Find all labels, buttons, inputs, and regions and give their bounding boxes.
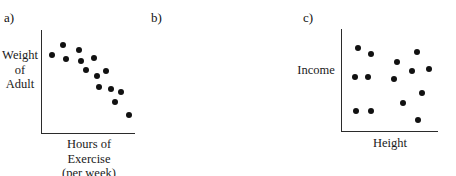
data-point [49, 52, 55, 58]
panel-letter-b: b) [151, 11, 162, 24]
data-point [126, 112, 132, 118]
data-point [78, 58, 84, 64]
data-point [63, 56, 69, 62]
x-axis-label-a: Hours of Exercise (per week) [42, 137, 136, 176]
data-point [103, 68, 109, 74]
scatter-panel-a: a) Weight of Adult Hours of Exercise (pe… [0, 0, 150, 176]
data-point [96, 84, 102, 90]
scatter-panel-c: c) Height of Corn Plant (cm) Age of Corn… [295, 0, 456, 176]
data-point [83, 67, 89, 73]
data-point [60, 42, 66, 48]
data-point [76, 47, 82, 53]
panel-letter-c: c) [303, 11, 313, 24]
plot-area-a [41, 30, 135, 134]
data-point [108, 86, 114, 92]
data-point [112, 99, 118, 105]
data-point [118, 89, 124, 95]
data-point [94, 73, 100, 79]
scatter-panel-b: b) Income Height [148, 0, 298, 176]
y-axis-label-a: Weight of Adult [0, 48, 40, 92]
panel-letter-a: a) [4, 11, 14, 24]
data-point [91, 55, 97, 61]
